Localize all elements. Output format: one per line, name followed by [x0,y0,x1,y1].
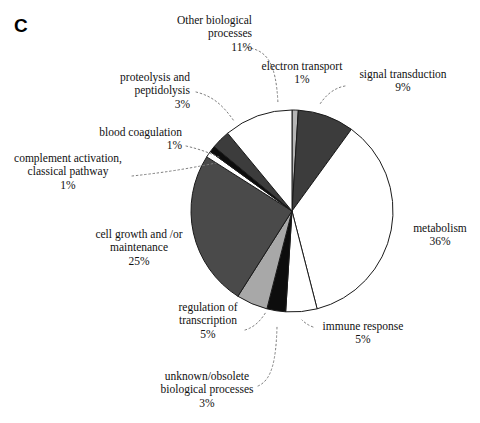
slice-label-signal-transduction: signal transduction 9% [347,68,459,95]
label-line-2: biological processes [161,383,254,395]
label-line-1: proteolysis and [120,71,190,83]
slice-label-complement-activation: complement activation, classical pathway… [4,152,132,192]
leader-line-proteolysis [196,92,234,121]
label-line-2: processes [208,27,252,39]
label-line-1: regulation of [178,301,237,313]
label-line-1: complement activation, [14,152,122,164]
label-line-1: cell growth and /or [95,228,182,240]
label-percent: 3% [78,98,190,111]
label-line-1: Other biological [177,14,252,26]
label-line-1: blood coagulation [99,126,182,138]
label-line-1: signal transduction [359,68,446,80]
label-line-1: metabolism [413,222,467,234]
label-line-2: peptidolysis [134,84,190,96]
label-percent: 3% [152,397,262,410]
slice-label-cell-growth-and-or-maintenance: cell growth and /or maintenance 25% [78,228,200,268]
label-line-1: unknown/obsolete [165,370,249,382]
pie-slices-group [191,110,393,312]
label-percent: 25% [78,255,200,268]
leader-line-signal-transduction [320,86,345,104]
label-percent: 1% [4,179,132,192]
label-percent: 1% [249,73,355,86]
slice-label-immune-response: immune response 5% [311,320,415,347]
slice-label-electron-transport: electron transport 1% [249,60,355,87]
slice-label-metabolism: metabolism 36% [403,222,477,249]
slice-label-proteolysis-and-peptidolysis: proteolysis and peptidolysis 3% [78,71,190,111]
label-line-2: classical pathway [28,165,109,177]
label-line-1: electron transport [262,60,343,72]
label-percent: 36% [403,235,477,248]
label-percent: 11% [142,41,252,54]
label-line-2: maintenance [110,241,168,253]
slice-label-other-biological-processes: Other biological processes 11% [142,14,252,54]
slice-label-regulation-of-transcription: regulation of transcription 5% [165,301,251,341]
slice-label-blood-coagulation: blood coagulation 1% [68,126,182,153]
label-percent: 5% [165,328,251,341]
label-line-2: transcription [179,314,237,326]
label-percent: 1% [68,139,182,152]
slice-label-unknown-obsolete-biological-processes: unknown/obsolete biological processes 3% [152,370,262,410]
label-percent: 9% [347,81,459,94]
pie-chart-graphic [0,0,480,423]
label-percent: 5% [311,333,415,346]
label-line-1: immune response [323,320,404,332]
pie-chart-figure: C Other biological processes 11% proteol… [0,0,480,423]
